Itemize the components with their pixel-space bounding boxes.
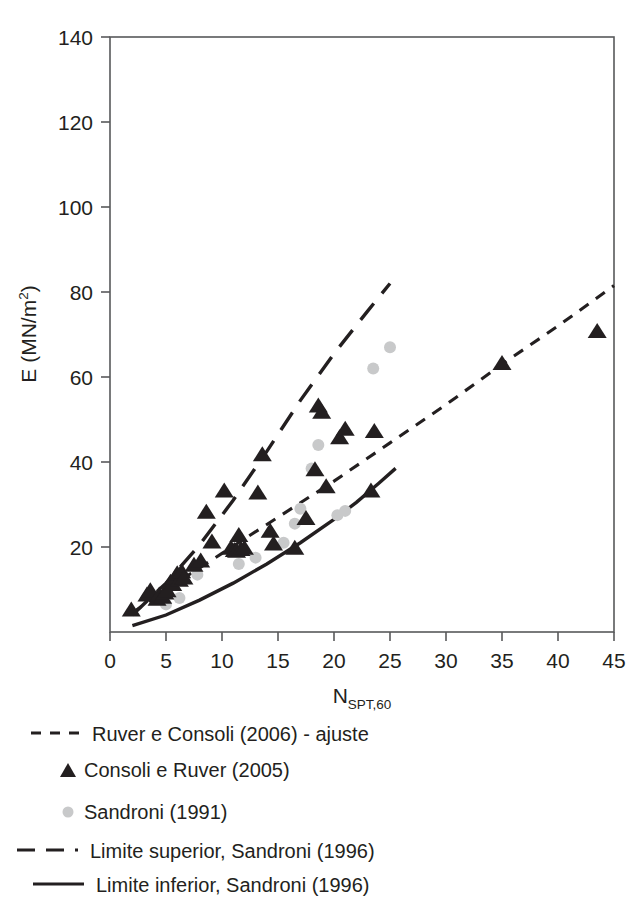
data-point-sandroni-1991 bbox=[173, 592, 185, 604]
y-tick-label-140: 140 bbox=[58, 26, 93, 49]
y-tick-label-100: 100 bbox=[58, 196, 93, 219]
x-axis-tick-labels: 0 5 10 15 20 25 30 35 40 45 bbox=[104, 649, 626, 672]
data-point-consoli-ruver-2005 bbox=[248, 485, 267, 500]
gray-circle-icon bbox=[63, 807, 74, 818]
x-tick-label-40: 40 bbox=[546, 649, 569, 672]
y-axis-title: E (MN/m2) bbox=[16, 285, 40, 382]
data-point-consoli-ruver-2005 bbox=[336, 421, 355, 436]
data-point-sandroni-1991 bbox=[312, 439, 324, 451]
data-point-consoli-ruver-2005 bbox=[229, 527, 248, 542]
data-point-consoli-ruver-2005 bbox=[197, 504, 216, 519]
data-point-consoli-ruver-2005 bbox=[261, 523, 280, 538]
legend-item-ruver-consoli-ajuste[interactable]: Ruver e Consoli (2006) - ajuste bbox=[31, 723, 369, 745]
y-tick-label-40: 40 bbox=[70, 451, 93, 474]
figure-container: 140 120 100 80 60 40 20 E (MN/m2) bbox=[0, 0, 642, 900]
legend-item-limite-inferior[interactable]: Limite inferior, Sandroni (1996) bbox=[33, 874, 369, 896]
y-axis-title-close: ) bbox=[17, 285, 40, 292]
scatter-plot: 140 120 100 80 60 40 20 E (MN/m2) bbox=[0, 0, 642, 900]
y-axis-title-base: E (MN/m bbox=[17, 300, 40, 383]
x-axis-title-base: N bbox=[333, 684, 348, 707]
data-point-sandroni-1991 bbox=[233, 558, 245, 570]
x-tick-label-10: 10 bbox=[210, 649, 233, 672]
svg-text:E (MN/m2): E (MN/m2) bbox=[16, 285, 40, 382]
x-tick-label-15: 15 bbox=[266, 649, 289, 672]
x-axis-title: NSPT,60 bbox=[333, 684, 392, 712]
svg-text:NSPT,60: NSPT,60 bbox=[333, 684, 392, 712]
legend-label-ruver-consoli-ajuste: Ruver e Consoli (2006) - ajuste bbox=[92, 723, 369, 745]
x-tick-label-20: 20 bbox=[322, 649, 345, 672]
legend-label-limite-superior: Limite superior, Sandroni (1996) bbox=[90, 840, 375, 862]
x-tick-label-0: 0 bbox=[104, 649, 116, 672]
legend: Ruver e Consoli (2006) - ajuste Consoli … bbox=[17, 723, 375, 896]
y-axis-title-superscript: 2 bbox=[16, 292, 31, 300]
plot-frame bbox=[110, 37, 614, 632]
data-point-sandroni-1991 bbox=[339, 505, 351, 517]
legend-item-limite-superior[interactable]: Limite superior, Sandroni (1996) bbox=[17, 840, 375, 862]
y-tick-label-80: 80 bbox=[70, 281, 93, 304]
y-axis-tick-labels: 140 120 100 80 60 40 20 bbox=[58, 26, 93, 559]
y-tick-label-20: 20 bbox=[70, 536, 93, 559]
data-point-sandroni-1991 bbox=[367, 363, 379, 375]
x-tick-label-35: 35 bbox=[490, 649, 513, 672]
y-tick-label-120: 120 bbox=[58, 111, 93, 134]
series-limite-inferior bbox=[132, 468, 395, 625]
data-point-consoli-ruver-2005 bbox=[215, 482, 234, 497]
legend-item-consoli-ruver-2005[interactable]: Consoli e Ruver (2005) bbox=[60, 759, 290, 781]
y-tick-label-60: 60 bbox=[70, 366, 93, 389]
x-tick-label-30: 30 bbox=[434, 649, 457, 672]
data-point-consoli-ruver-2005 bbox=[493, 355, 512, 370]
legend-label-limite-inferior: Limite inferior, Sandroni (1996) bbox=[96, 874, 369, 896]
x-axis-title-subscript: SPT,60 bbox=[348, 697, 392, 712]
legend-item-sandroni-1991[interactable]: Sandroni (1991) bbox=[63, 801, 228, 823]
x-axis-ticks bbox=[110, 632, 614, 641]
data-point-consoli-ruver-2005 bbox=[588, 323, 607, 338]
legend-label-consoli-ruver-2005: Consoli e Ruver (2005) bbox=[84, 759, 290, 781]
x-tick-label-25: 25 bbox=[378, 649, 401, 672]
y-axis-ticks bbox=[101, 37, 110, 547]
x-tick-label-45: 45 bbox=[602, 649, 625, 672]
x-tick-label-5: 5 bbox=[160, 649, 172, 672]
triangle-icon bbox=[60, 763, 76, 777]
data-point-sandroni-1991 bbox=[384, 341, 396, 353]
legend-label-sandroni-1991: Sandroni (1991) bbox=[84, 801, 227, 823]
data-point-consoli-ruver-2005 bbox=[365, 423, 384, 438]
